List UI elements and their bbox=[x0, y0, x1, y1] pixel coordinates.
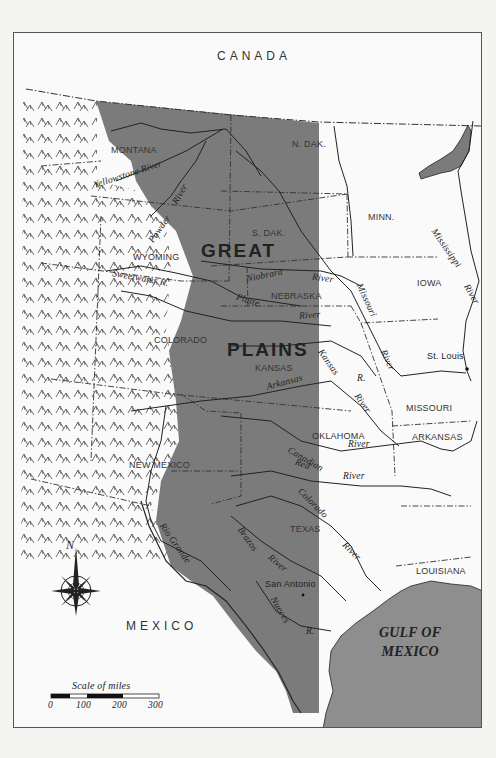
state-colorado: COLORADO bbox=[154, 335, 207, 345]
city-san-antonio: San Antonio bbox=[265, 579, 316, 589]
state-nebraska: NEBRASKA bbox=[271, 291, 322, 301]
state-kansas: KANSAS bbox=[255, 363, 293, 373]
city-st-louis: St. Louis bbox=[427, 351, 464, 361]
state-south-dakota: S. DAK. bbox=[252, 228, 285, 238]
scale-tick-100: 100 bbox=[76, 700, 91, 710]
scale-tick-200: 200 bbox=[112, 700, 127, 710]
state-montana: MONTANA bbox=[111, 145, 157, 155]
state-north-dakota: N. DAK. bbox=[292, 139, 326, 149]
lake-superior bbox=[419, 125, 471, 179]
state-missouri: MISSOURI bbox=[406, 403, 452, 413]
plains-label: PLAINS bbox=[227, 339, 309, 361]
river-nueces-r: R. bbox=[306, 626, 315, 636]
gulf-label-line2: MEXICO bbox=[379, 642, 441, 661]
scale-tick-0: 0 bbox=[48, 700, 53, 710]
state-texas: TEXAS bbox=[290, 524, 321, 534]
state-arkansas: ARKANSAS bbox=[412, 432, 463, 442]
state-new-mexico: NEW MEXICO bbox=[129, 460, 190, 470]
state-louisiana: LOUISIANA bbox=[416, 566, 466, 576]
scale-title: Scale of miles bbox=[72, 680, 130, 691]
state-wyoming: WYOMING bbox=[133, 252, 179, 262]
river-kansas-r: R. bbox=[357, 373, 366, 383]
scale-tick-300: 300 bbox=[148, 700, 163, 710]
great-label: GREAT bbox=[201, 240, 276, 262]
state-iowa: IOWA bbox=[417, 278, 441, 288]
state-minnesota: MINN. bbox=[368, 212, 395, 222]
san-antonio-marker bbox=[302, 594, 305, 597]
canada-label: CANADA bbox=[217, 49, 291, 63]
compass-north-label: N bbox=[66, 538, 74, 553]
gulf-of-mexico-label: GULF OF MEXICO bbox=[379, 623, 441, 661]
gulf-label-line1: GULF OF bbox=[379, 623, 441, 642]
river-canadian-river: River bbox=[348, 439, 370, 449]
scale-bar bbox=[51, 694, 159, 698]
river-platte-river: River bbox=[299, 309, 321, 320]
mexico-label: MEXICO bbox=[126, 619, 197, 633]
map-frame: CANADA MEXICO GREAT PLAINS MONTANA N. DA… bbox=[13, 32, 482, 728]
st-louis-marker bbox=[465, 367, 469, 371]
river-red-river: River bbox=[343, 471, 365, 481]
